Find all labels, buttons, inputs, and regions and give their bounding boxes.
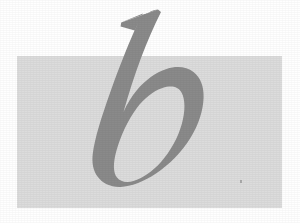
glyph-layer xyxy=(0,0,300,223)
letter-b-glyph xyxy=(92,10,203,187)
specimen-canvas: b xyxy=(0,0,300,223)
dust-speck-mark xyxy=(240,180,242,183)
